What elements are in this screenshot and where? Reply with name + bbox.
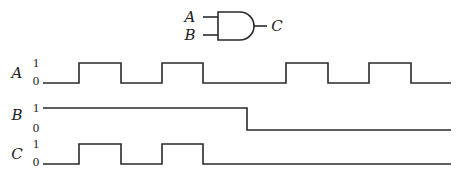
waveform-c xyxy=(43,144,451,164)
signal-c: C10 xyxy=(11,136,451,169)
waveform-b xyxy=(43,108,451,130)
level-high-label: 1 xyxy=(33,136,40,151)
level-high-label: 1 xyxy=(33,100,40,115)
gate-output-c-label: C xyxy=(271,17,283,35)
signal-name-label: B xyxy=(10,106,22,124)
signal-a: A10 xyxy=(10,55,451,88)
gate-input-b-label: B xyxy=(183,26,195,44)
level-high-label: 1 xyxy=(33,55,40,70)
signal-name-label: C xyxy=(11,145,23,163)
and-gate-icon xyxy=(218,12,254,40)
signal-b: B10 xyxy=(10,100,451,135)
waveform-a xyxy=(43,63,451,83)
level-low-label: 0 xyxy=(33,120,40,135)
signal-name-label: A xyxy=(10,64,23,82)
level-low-label: 0 xyxy=(33,154,40,169)
and-gate-symbol: A B C xyxy=(183,8,284,44)
and-gate-timing-diagram: A B C A10B10C10 xyxy=(0,0,463,179)
level-low-label: 0 xyxy=(33,73,40,88)
timing-waveforms: A10B10C10 xyxy=(10,55,451,169)
gate-input-a-label: A xyxy=(183,8,196,26)
